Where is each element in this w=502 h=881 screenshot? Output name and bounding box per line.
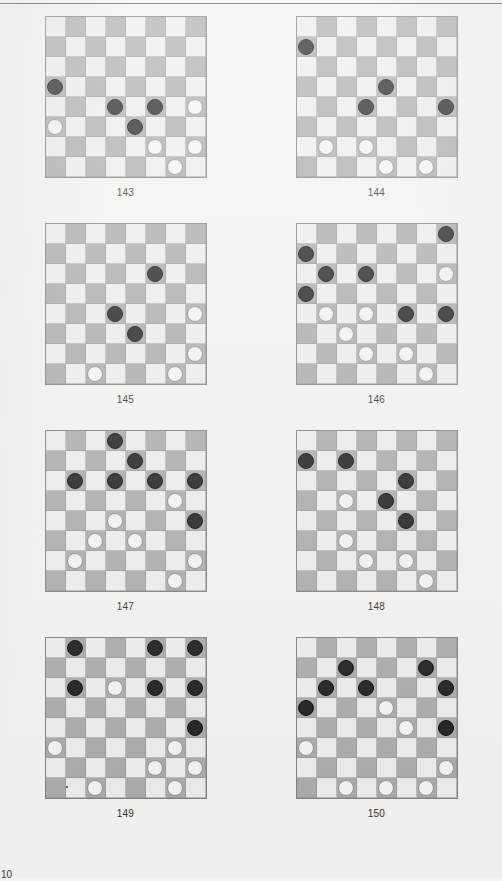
board-square[interactable] bbox=[146, 698, 166, 718]
board-square[interactable] bbox=[146, 244, 166, 264]
board-square[interactable] bbox=[146, 511, 166, 531]
black-piece[interactable] bbox=[298, 246, 314, 262]
board-square[interactable] bbox=[437, 364, 457, 384]
board-square[interactable] bbox=[126, 244, 146, 264]
board-square[interactable] bbox=[417, 284, 437, 304]
board-square[interactable] bbox=[377, 431, 397, 451]
board-square[interactable] bbox=[417, 758, 437, 778]
board-square[interactable] bbox=[86, 364, 106, 384]
board-square[interactable] bbox=[166, 778, 186, 798]
board-square[interactable] bbox=[46, 97, 66, 117]
board-square[interactable] bbox=[397, 157, 417, 177]
board-square[interactable] bbox=[46, 471, 66, 491]
board-square[interactable] bbox=[126, 344, 146, 364]
black-piece[interactable] bbox=[147, 680, 163, 696]
board-square[interactable] bbox=[146, 738, 166, 758]
board-square[interactable] bbox=[397, 117, 417, 137]
board-square[interactable] bbox=[417, 157, 437, 177]
black-piece[interactable] bbox=[298, 286, 314, 302]
board-square[interactable] bbox=[397, 244, 417, 264]
board-square[interactable] bbox=[377, 678, 397, 698]
board-square[interactable] bbox=[186, 17, 206, 37]
board-square[interactable] bbox=[46, 137, 66, 157]
board-square[interactable] bbox=[317, 738, 337, 758]
board-square[interactable] bbox=[106, 304, 126, 324]
board-square[interactable] bbox=[437, 531, 457, 551]
board-square[interactable] bbox=[106, 431, 126, 451]
black-piece[interactable] bbox=[67, 680, 83, 696]
board-square[interactable] bbox=[146, 97, 166, 117]
board-square[interactable] bbox=[417, 678, 437, 698]
white-piece[interactable] bbox=[358, 553, 374, 569]
board-square[interactable] bbox=[337, 551, 357, 571]
board-square[interactable] bbox=[146, 678, 166, 698]
board-square[interactable] bbox=[357, 157, 377, 177]
black-piece[interactable] bbox=[358, 680, 374, 696]
board-square[interactable] bbox=[357, 344, 377, 364]
board-square[interactable] bbox=[106, 97, 126, 117]
board-square[interactable] bbox=[146, 77, 166, 97]
board-square[interactable] bbox=[317, 571, 337, 591]
board-square[interactable] bbox=[146, 431, 166, 451]
board-square[interactable] bbox=[66, 344, 86, 364]
black-piece[interactable] bbox=[438, 226, 454, 242]
board-square[interactable] bbox=[126, 77, 146, 97]
board-square[interactable] bbox=[437, 658, 457, 678]
black-piece[interactable] bbox=[438, 99, 454, 115]
board-square[interactable] bbox=[86, 638, 106, 658]
board-square[interactable] bbox=[66, 324, 86, 344]
board-square[interactable] bbox=[186, 738, 206, 758]
board-square[interactable] bbox=[186, 571, 206, 591]
white-piece[interactable] bbox=[167, 573, 183, 589]
board-square[interactable] bbox=[317, 678, 337, 698]
black-piece[interactable] bbox=[438, 306, 454, 322]
black-piece[interactable] bbox=[358, 266, 374, 282]
board-square[interactable] bbox=[126, 431, 146, 451]
board-square[interactable] bbox=[317, 638, 337, 658]
board-square[interactable] bbox=[186, 304, 206, 324]
board-square[interactable] bbox=[86, 571, 106, 591]
board-square[interactable] bbox=[397, 304, 417, 324]
board-square[interactable] bbox=[317, 117, 337, 137]
board-square[interactable] bbox=[166, 57, 186, 77]
board-square[interactable] bbox=[297, 531, 317, 551]
board-square[interactable] bbox=[377, 344, 397, 364]
board-square[interactable] bbox=[86, 758, 106, 778]
board-square[interactable] bbox=[86, 304, 106, 324]
board-square[interactable] bbox=[146, 471, 166, 491]
board-square[interactable] bbox=[437, 224, 457, 244]
board-square[interactable] bbox=[377, 471, 397, 491]
board-square[interactable] bbox=[106, 658, 126, 678]
board-square[interactable] bbox=[397, 97, 417, 117]
board-square[interactable] bbox=[146, 37, 166, 57]
board-square[interactable] bbox=[106, 778, 126, 798]
board-square[interactable] bbox=[317, 324, 337, 344]
board-square[interactable] bbox=[397, 678, 417, 698]
board-square[interactable] bbox=[126, 157, 146, 177]
board-square[interactable] bbox=[186, 658, 206, 678]
board-square[interactable] bbox=[186, 224, 206, 244]
board-square[interactable] bbox=[357, 97, 377, 117]
board-square[interactable] bbox=[377, 638, 397, 658]
white-piece[interactable] bbox=[187, 553, 203, 569]
board-square[interactable] bbox=[166, 97, 186, 117]
board-square[interactable] bbox=[106, 264, 126, 284]
board-square[interactable] bbox=[186, 471, 206, 491]
board-square[interactable] bbox=[337, 117, 357, 137]
board-square[interactable] bbox=[66, 758, 86, 778]
board-square[interactable] bbox=[66, 37, 86, 57]
board-square[interactable] bbox=[106, 284, 126, 304]
board-square[interactable] bbox=[146, 304, 166, 324]
white-piece[interactable] bbox=[187, 99, 203, 115]
board-square[interactable] bbox=[377, 738, 397, 758]
board-square[interactable] bbox=[397, 264, 417, 284]
board-square[interactable] bbox=[46, 738, 66, 758]
board-square[interactable] bbox=[186, 137, 206, 157]
board-square[interactable] bbox=[317, 57, 337, 77]
board-square[interactable] bbox=[186, 758, 206, 778]
board-square[interactable] bbox=[357, 571, 377, 591]
board-square[interactable] bbox=[46, 324, 66, 344]
board-square[interactable] bbox=[46, 571, 66, 591]
board-square[interactable] bbox=[357, 678, 377, 698]
board-square[interactable] bbox=[66, 97, 86, 117]
